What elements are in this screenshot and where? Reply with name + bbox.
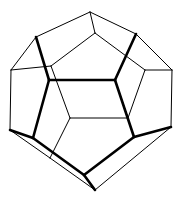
edge-G-M — [51, 66, 70, 118]
edge-I-O — [33, 80, 49, 138]
edge-A-D — [90, 12, 136, 34]
edge-O-R — [33, 138, 84, 175]
edge-A-C — [36, 12, 90, 37]
edge-E-K — [10, 70, 11, 130]
edge-B-H — [95, 33, 145, 70]
edge-K-Q — [10, 130, 50, 158]
edge-D-J — [115, 34, 136, 80]
edge-C-E — [11, 37, 36, 70]
edge-K-O — [10, 130, 33, 138]
edge-H-N — [128, 70, 145, 118]
edge-F-L — [171, 70, 172, 127]
dodecahedron-figure — [0, 0, 182, 197]
edge-D-F — [136, 34, 172, 70]
edge-C-I — [36, 37, 49, 80]
edge-B-G — [51, 33, 95, 66]
edge-Q-S — [50, 158, 95, 190]
edge-R-S — [84, 175, 95, 190]
edge-P-R — [84, 137, 134, 175]
edge-A-B — [90, 12, 95, 33]
